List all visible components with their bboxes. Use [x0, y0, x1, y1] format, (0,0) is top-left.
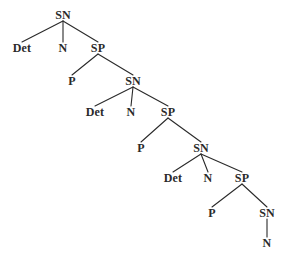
- tree-node-p1: P: [68, 75, 76, 87]
- tree-node-sn1: SN: [55, 9, 71, 21]
- tree-node-n1: N: [59, 42, 68, 54]
- tree-node-sn3: SN: [193, 142, 209, 154]
- tree-node-n4: N: [263, 237, 272, 249]
- tree-node-n2: N: [127, 106, 136, 118]
- tree-edge-sn2-det2: [95, 87, 133, 106]
- tree-node-det3: Det: [164, 172, 183, 184]
- tree-edge-sn2-sp2: [133, 87, 168, 106]
- tree-edge-sp3-sn4: [242, 184, 267, 207]
- tree-node-det1: Det: [13, 42, 32, 54]
- tree-edge-sp1-sn2: [98, 54, 133, 75]
- tree-edge-sn1-det1: [22, 21, 63, 42]
- tree-node-sn2: SN: [125, 75, 141, 87]
- syntax-tree-diagram: SNDetNSPPSNDetNSPPSNDetNSPPSNN: [0, 0, 294, 261]
- tree-edge-layer: [0, 0, 294, 261]
- tree-node-p2: P: [137, 142, 145, 154]
- tree-node-det2: Det: [86, 106, 105, 118]
- tree-edge-sn3-det3: [173, 154, 201, 172]
- tree-edge-sp3-p3: [212, 184, 242, 207]
- tree-edge-sp2-p2: [141, 118, 168, 142]
- tree-node-sp1: SP: [91, 42, 105, 54]
- tree-node-n3: N: [204, 172, 213, 184]
- tree-node-sn4: SN: [259, 207, 275, 219]
- tree-edge-sp1-p1: [72, 54, 98, 75]
- tree-edge-sn1-sp1: [63, 21, 98, 42]
- tree-edge-sp2-sn3: [168, 118, 201, 142]
- tree-edge-sn2-n2: [131, 87, 133, 106]
- tree-node-sp3: SP: [235, 172, 249, 184]
- tree-node-sp2: SP: [161, 106, 175, 118]
- tree-node-p3: P: [208, 207, 216, 219]
